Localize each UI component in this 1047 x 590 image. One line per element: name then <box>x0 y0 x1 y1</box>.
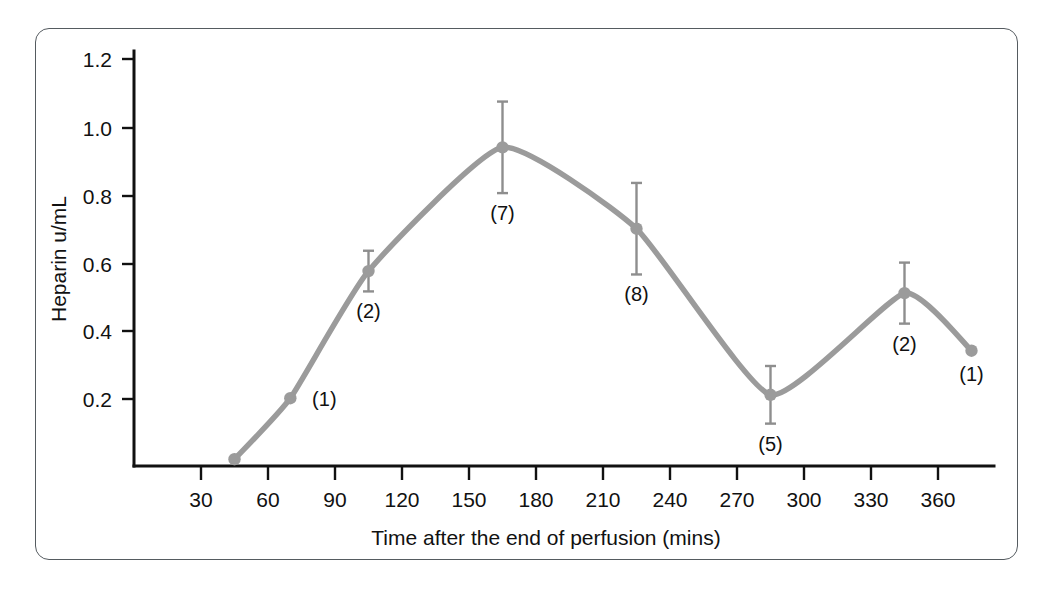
data-point-105min[interactable] <box>362 265 374 277</box>
series-line <box>235 147 972 459</box>
y-tick-label-0.8: 0.8 <box>83 185 112 208</box>
data-point-225min[interactable] <box>630 223 642 235</box>
y-tick-label-0.2: 0.2 <box>83 388 112 411</box>
x-tick-label-120: 120 <box>384 488 419 511</box>
point-count-label-225min: (8) <box>624 283 648 305</box>
data-point-375min[interactable] <box>965 345 977 357</box>
point-count-label-345min: (2) <box>892 333 916 355</box>
y-tick-label-1.0: 1.0 <box>83 117 112 140</box>
data-point-70min[interactable] <box>284 392 296 404</box>
data-series-heparin: (1)(2)(7)(8)(5)(2)(1) <box>228 102 983 466</box>
y-tick-marks <box>122 59 134 399</box>
x-tick-label-90: 90 <box>323 488 346 511</box>
x-tick-marks <box>201 466 938 480</box>
y-tick-label-0.4: 0.4 <box>83 320 113 343</box>
data-point-285min[interactable] <box>764 389 776 401</box>
x-tick-label-270: 270 <box>719 488 754 511</box>
error-bars-group <box>363 102 910 424</box>
x-tick-label-300: 300 <box>786 488 821 511</box>
axes-group <box>134 51 994 466</box>
x-tick-label-60: 60 <box>256 488 279 511</box>
point-count-label-70min: (1) <box>312 388 336 410</box>
x-tick-label-360: 360 <box>920 488 955 511</box>
point-count-label-165min: (7) <box>490 202 514 224</box>
x-tick-label-240: 240 <box>652 488 687 511</box>
data-markers-group <box>228 141 977 465</box>
heparin-time-line-chart: 1.2 1.0 0.8 0.6 0.4 0.2 Heparin u/mL 3 <box>36 29 1019 561</box>
y-tick-labels: 1.2 1.0 0.8 0.6 0.4 0.2 <box>83 48 113 411</box>
point-count-label-375min: (1) <box>959 363 983 385</box>
x-tick-label-30: 30 <box>189 488 212 511</box>
x-tick-labels: 30 60 90 120 150 180 210 240 270 300 330… <box>189 488 955 511</box>
x-tick-label-180: 180 <box>518 488 553 511</box>
y-tick-label-1.2: 1.2 <box>83 48 112 71</box>
data-point-345min[interactable] <box>898 287 910 299</box>
data-point-45min[interactable] <box>228 453 240 465</box>
x-axis-title: Time after the end of perfusion (mins) <box>371 526 720 549</box>
point-count-label-285min: (5) <box>758 433 782 455</box>
y-tick-label-0.6: 0.6 <box>83 253 112 276</box>
x-tick-label-150: 150 <box>451 488 486 511</box>
x-tick-label-330: 330 <box>853 488 888 511</box>
point-count-label-105min: (2) <box>356 300 380 322</box>
x-tick-label-210: 210 <box>585 488 620 511</box>
data-point-165min[interactable] <box>496 141 508 153</box>
y-axis-title: Heparin u/mL <box>47 196 70 322</box>
figure-frame: 1.2 1.0 0.8 0.6 0.4 0.2 Heparin u/mL 3 <box>35 28 1018 560</box>
